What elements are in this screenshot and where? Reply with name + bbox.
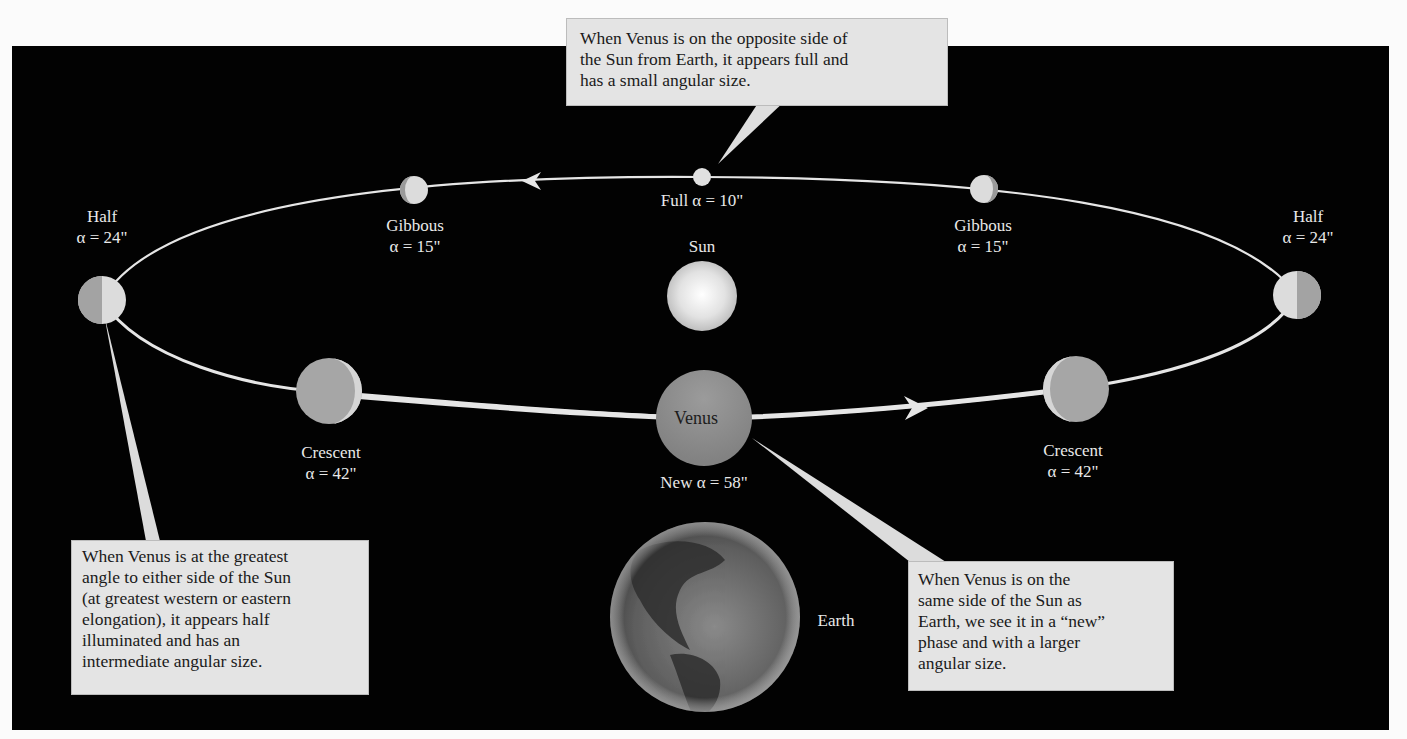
label-sun: Sun <box>660 236 744 257</box>
label-gibbous-left: Gibbous α = 15" <box>365 215 465 257</box>
callout-tail-left <box>104 314 160 541</box>
venus-full-icon <box>693 168 711 186</box>
venus-half-right-icon <box>1273 271 1321 319</box>
orbit-front-left-thick <box>340 395 660 417</box>
venus-gibbous-left-icon <box>400 176 428 204</box>
label-crescent-left: Crescent α = 42" <box>276 442 386 484</box>
arrow-left-icon <box>522 172 541 190</box>
label-new: New α = 58" <box>630 472 778 493</box>
label-full: Full α = 10" <box>630 190 774 211</box>
callout-tail-right <box>752 438 946 562</box>
label-half-right: Half α = 24" <box>1258 206 1358 248</box>
orbit-front-right-thick <box>750 390 1060 417</box>
label-earth: Earth <box>804 610 868 631</box>
label-crescent-right: Crescent α = 42" <box>1018 440 1128 482</box>
callout-left: When Venus is at the greatest angle to e… <box>71 540 369 695</box>
label-half-left: Half α = 24" <box>52 206 152 248</box>
venus-gibbous-right-icon <box>970 175 998 203</box>
venus-crescent-right-icon <box>1043 356 1109 422</box>
callout-right: When Venus is on the same side of the Su… <box>908 561 1174 691</box>
callout-top: When Venus is on the opposite side of th… <box>566 18 948 106</box>
venus-half-left-icon <box>78 276 126 324</box>
sun-icon <box>667 261 737 331</box>
orbit-front-right <box>750 295 1297 417</box>
earth-icon <box>610 522 800 720</box>
callout-tail-top <box>718 100 786 164</box>
label-gibbous-right: Gibbous α = 15" <box>933 215 1033 257</box>
label-venus: Venus <box>674 408 718 429</box>
venus-crescent-left-icon <box>296 358 362 424</box>
